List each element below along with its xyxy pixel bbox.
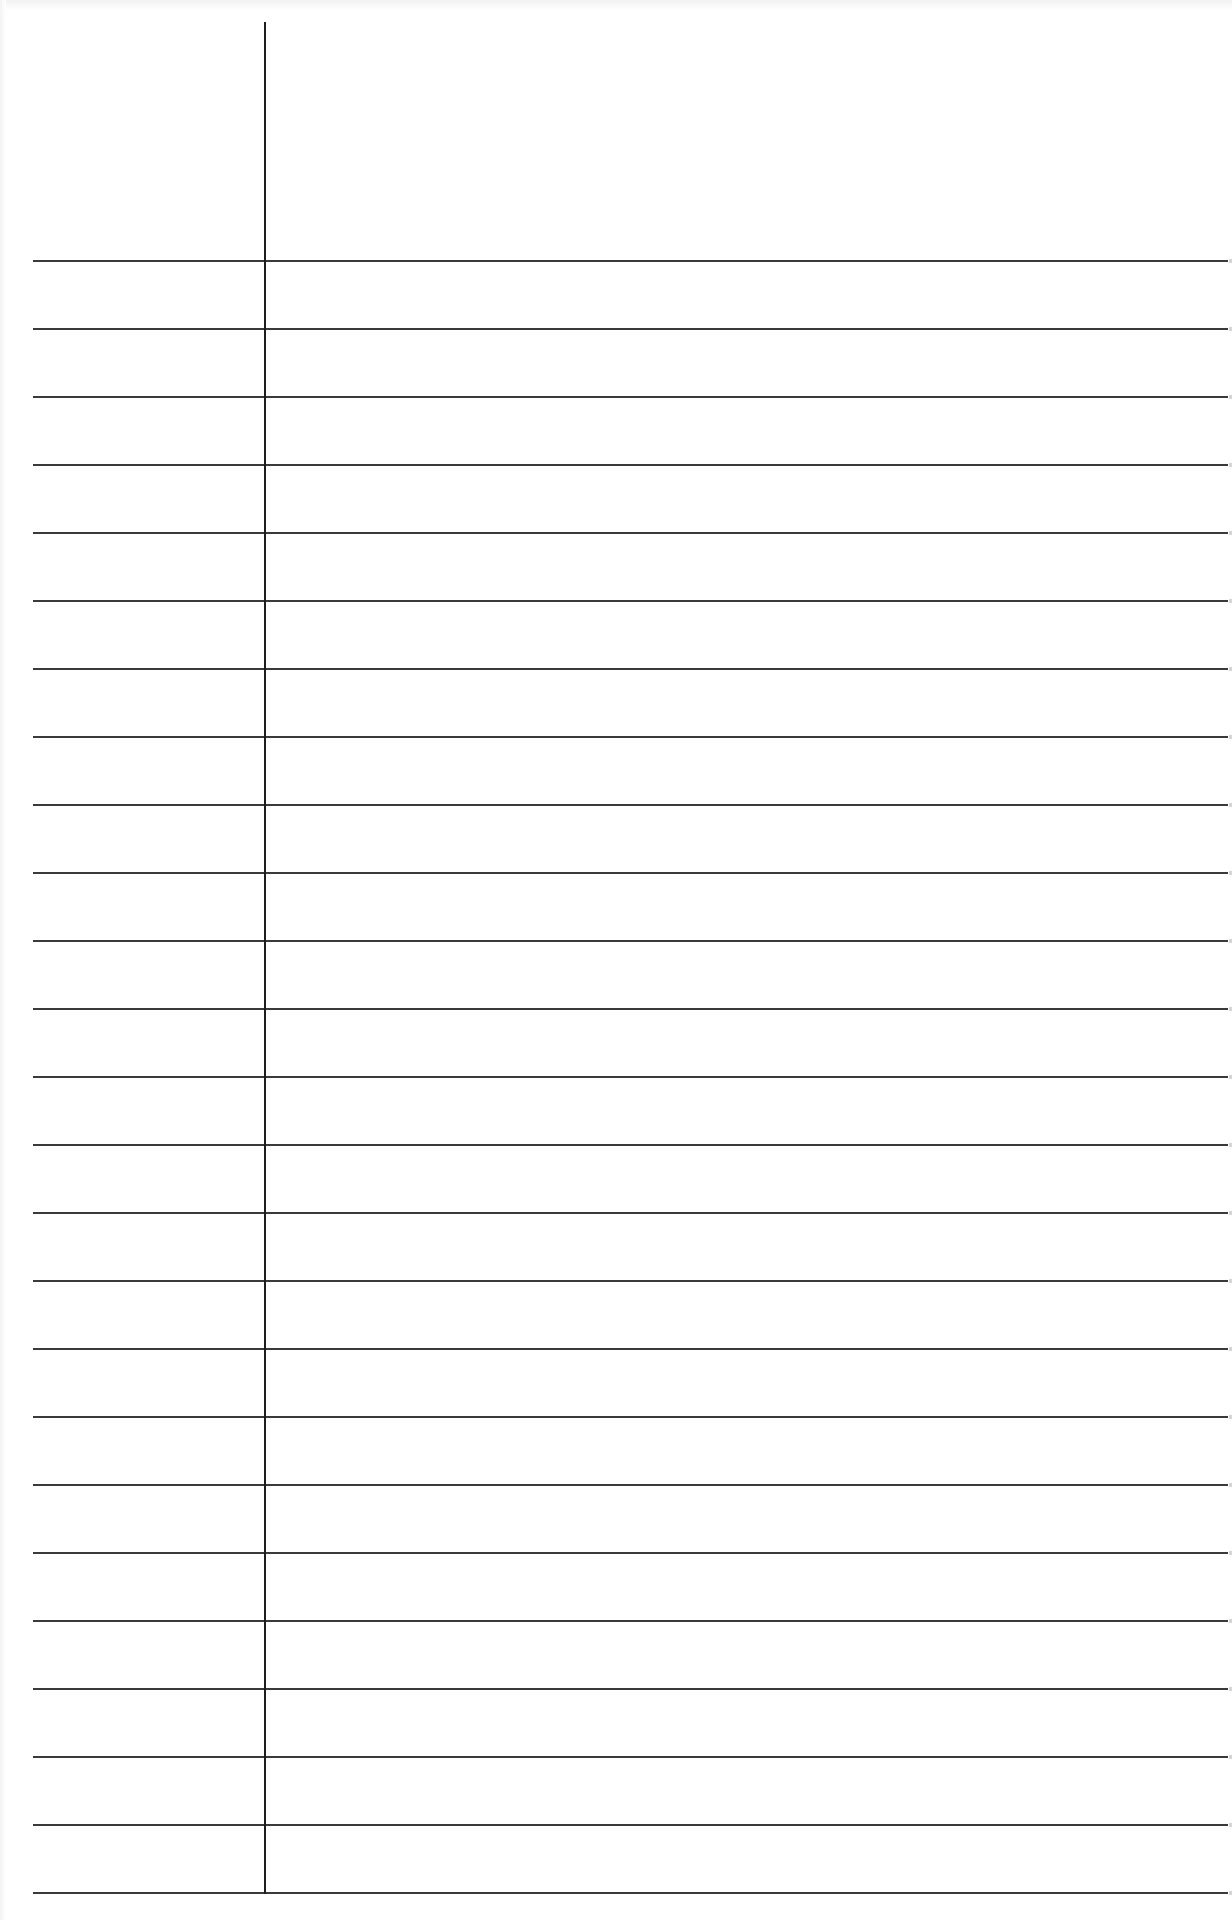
ruled-line (33, 600, 1228, 602)
ruled-line (33, 1688, 1228, 1690)
ruled-line (33, 668, 1228, 670)
ruled-line (33, 328, 1228, 330)
ruled-line (33, 260, 1228, 262)
ruled-line (33, 1280, 1228, 1282)
ruled-line (33, 1892, 1228, 1894)
ruled-line (33, 1824, 1228, 1826)
ruled-line (33, 872, 1228, 874)
ruled-line (33, 532, 1228, 534)
ruled-line (33, 1144, 1228, 1146)
ruled-line (33, 1552, 1228, 1554)
ruled-line (33, 1620, 1228, 1622)
scan-shadow-top (0, 0, 1232, 10)
ruled-line (33, 1756, 1228, 1758)
margin-line (264, 22, 266, 1894)
ruled-line (33, 1076, 1228, 1078)
lined-paper-page (0, 0, 1232, 1920)
ruled-line (33, 464, 1228, 466)
ruled-line (33, 396, 1228, 398)
ruled-line (33, 1484, 1228, 1486)
ruled-line (33, 1008, 1228, 1010)
ruled-line (33, 736, 1228, 738)
scan-shadow-left (0, 0, 6, 1920)
ruled-line (33, 1416, 1228, 1418)
ruled-line (33, 804, 1228, 806)
ruled-line (33, 940, 1228, 942)
ruled-line (33, 1348, 1228, 1350)
ruled-line (33, 1212, 1228, 1214)
